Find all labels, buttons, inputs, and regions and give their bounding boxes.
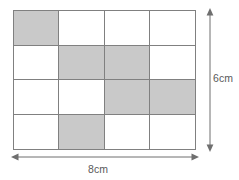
rectangle-grid-figure: 6cm 8cm <box>0 0 239 180</box>
grid-cell-r4c4 <box>150 115 195 150</box>
grid-cell-r1c3 <box>105 11 150 46</box>
grid-cell-r4c2 <box>59 115 104 150</box>
arrow-head-right-icon <box>192 154 200 161</box>
grid-cell-r1c4 <box>150 11 195 46</box>
grid-cell-r2c1 <box>14 46 59 81</box>
grid-cell-r4c3 <box>105 115 150 150</box>
arrow-head-up-icon <box>207 8 214 16</box>
arrow-head-down-icon <box>207 145 214 153</box>
grid-cell-r1c2 <box>59 11 104 46</box>
width-dimension-label: 8cm <box>88 163 108 175</box>
grid-cell-r2c4 <box>150 46 195 81</box>
grid-cell-r2c3 <box>105 46 150 81</box>
arrow-head-left-icon <box>11 154 19 161</box>
grid-cell-r3c3 <box>105 80 150 115</box>
grid-cell-r2c2 <box>59 46 104 81</box>
height-dimension-label: 6cm <box>213 72 233 84</box>
rectangle-grid <box>13 10 196 150</box>
grid-cell-r3c1 <box>14 80 59 115</box>
grid-cell-r3c2 <box>59 80 104 115</box>
grid-cell-r4c1 <box>14 115 59 150</box>
grid-cell-r1c1 <box>14 11 59 46</box>
grid-cell-r3c4 <box>150 80 195 115</box>
